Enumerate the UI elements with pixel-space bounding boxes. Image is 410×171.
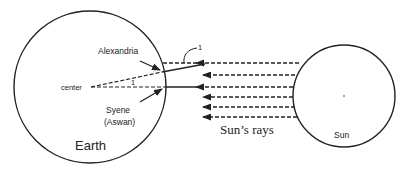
diagram-canvas: Alexandria center 1 1 Syene (Aswan) Eart… [0,0,410,171]
label-earth: Earth [75,138,106,153]
label-sun-rays: Sun’s rays [220,122,274,137]
label-aswan: (Aswan) [104,117,135,127]
label-alexandria: Alexandria [98,46,138,56]
alexandria-pointer [140,61,160,70]
syene-pointer [140,89,162,102]
center-to-alexandria [91,72,162,87]
sun-rays [161,63,299,117]
angle-leader [184,48,197,63]
label-angle-alexandria: 1 [198,43,202,52]
alexandria-solid-ray [162,64,205,72]
sun-center-dot [343,95,345,97]
label-center: center [61,83,82,92]
label-syene: Syene [106,105,130,115]
label-sun: Sun [334,130,349,140]
label-angle-center: 1 [131,78,135,87]
